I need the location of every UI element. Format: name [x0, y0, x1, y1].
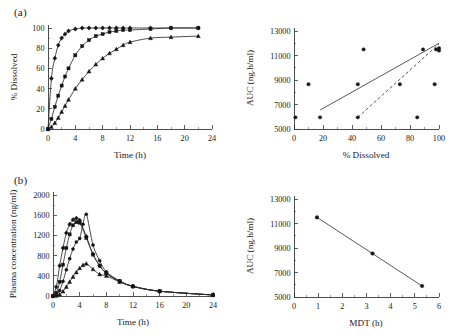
chart-dissolution-profile: 04812162024020406080100 Time (h) % Disso…	[0, 0, 232, 168]
data-point-circle	[416, 116, 419, 119]
y-tick-label: 60	[36, 64, 44, 73]
data-point-triangle	[56, 116, 60, 120]
chart-plasma-concentration: 048121620240400800120016002000 Time (h) …	[0, 168, 232, 336]
y-tick-label: 7000	[274, 269, 290, 278]
data-point-circle	[78, 237, 81, 240]
data-point-square	[115, 29, 118, 32]
data-point-diamond	[56, 43, 60, 47]
regression-line	[358, 44, 439, 118]
data-point-circle	[58, 289, 61, 292]
x-tick-label: 4	[389, 302, 393, 311]
data-point-square	[78, 221, 81, 224]
x-tick-label: 16	[153, 134, 161, 143]
tick-label-group: 048121620240400800120016002000	[33, 191, 217, 310]
x-tick-label: 5	[413, 302, 417, 311]
tick-label-group: 01234565000700090001100013000	[270, 195, 441, 311]
y-tick-label: 2000	[33, 191, 49, 200]
dissolution-svg: 04812162024020406080100 Time (h) % Disso…	[0, 0, 232, 168]
series-line	[53, 264, 213, 296]
data-point-triangle	[108, 51, 112, 55]
data-point-square	[65, 246, 68, 249]
data-point-square	[169, 26, 172, 29]
series-line	[48, 36, 198, 129]
x-tick-label: 6	[437, 302, 441, 311]
x-tick-label: 16	[156, 301, 164, 310]
data-point-square	[91, 253, 94, 256]
data-point-square	[61, 263, 64, 266]
data-point-triangle	[63, 104, 67, 108]
x-tick-label: 12	[126, 134, 134, 143]
data-point-circle	[421, 48, 424, 51]
data-point-square	[57, 94, 60, 97]
x-tick-label: 20	[182, 301, 190, 310]
x-tick-label: 3	[364, 302, 368, 311]
data-point-diamond	[68, 222, 72, 226]
x-tick-label: 24	[209, 301, 217, 310]
data-group	[315, 216, 424, 288]
data-point-circle	[315, 216, 319, 220]
data-point-square	[87, 39, 90, 42]
data-point-circle	[61, 280, 64, 283]
x-axis-title: Time (h)	[117, 317, 149, 327]
x-axis-title: % Dissolved	[343, 150, 390, 160]
axes-group	[53, 192, 213, 296]
data-point-square	[81, 45, 84, 48]
x-tick-label: 4	[73, 134, 77, 143]
data-point-square	[122, 28, 125, 31]
x-tick-label: 100	[433, 134, 445, 143]
tick-group	[53, 195, 213, 296]
data-point-circle	[398, 83, 401, 86]
data-point-circle	[91, 243, 94, 246]
y-tick-label: 11000	[270, 220, 290, 229]
data-point-circle	[105, 270, 108, 273]
data-point-diamond	[64, 231, 68, 235]
x-tick-label: 80	[406, 134, 414, 143]
data-point-diamond	[80, 26, 84, 30]
data-point-circle	[71, 247, 74, 250]
tick-group	[294, 199, 439, 297]
data-point-diamond	[94, 26, 98, 30]
y-tick-label: 13000	[270, 195, 290, 204]
data-point-square	[67, 67, 70, 70]
x-tick-label: 20	[181, 134, 189, 143]
data-point-circle	[68, 257, 71, 260]
x-tick-label: 8	[104, 301, 108, 310]
data-point-circle	[81, 223, 84, 226]
x-tick-label: 1	[316, 302, 320, 311]
y-tick-label: 9000	[274, 76, 290, 85]
data-point-diamond	[101, 26, 105, 30]
data-point-square	[101, 33, 104, 36]
y-tick-label: 100	[32, 24, 44, 33]
data-point-circle	[75, 240, 78, 243]
data-point-circle	[420, 284, 424, 288]
x-tick-label: 0	[51, 301, 55, 310]
series-line	[53, 213, 213, 296]
data-point-square	[149, 27, 152, 30]
data-point-circle	[307, 83, 310, 86]
data-point-square	[50, 117, 53, 120]
y-tick-label: 5000	[274, 293, 290, 302]
data-point-circle	[65, 268, 68, 271]
data-point-square	[60, 84, 63, 87]
y-axis-title: % Dissolved	[9, 53, 19, 100]
plasma-svg: 048121620240400800120016002000 Time (h) …	[0, 168, 232, 336]
data-point-diamond	[108, 26, 112, 30]
data-point-circle	[98, 259, 101, 262]
chart-auc-vs-mdt: 01234565000700090001100013000 MDT (h) AU…	[232, 168, 463, 336]
data-point-triangle	[121, 43, 125, 47]
y-tick-label: 5000	[274, 125, 290, 134]
y-tick-label: 0	[45, 292, 49, 301]
figure-container: (a) (b) 04812162024020406080100 Time (h)…	[0, 0, 463, 336]
data-point-diamond	[73, 27, 77, 31]
data-point-circle	[318, 116, 321, 119]
y-axis-title: Plasma concentration (ng/ml)	[8, 190, 18, 299]
data-point-circle	[433, 83, 436, 86]
data-point-circle	[371, 252, 375, 256]
data-point-square	[68, 233, 71, 236]
y-axis-title: AUC (ng.h/ml)	[245, 50, 255, 106]
data-point-diamond	[53, 56, 57, 60]
data-point-square	[53, 105, 56, 108]
tick-group	[294, 31, 439, 129]
auc-mdt-svg: 01234565000700090001100013000 MDT (h) AU…	[232, 168, 463, 336]
x-tick-label: 20	[319, 134, 327, 143]
